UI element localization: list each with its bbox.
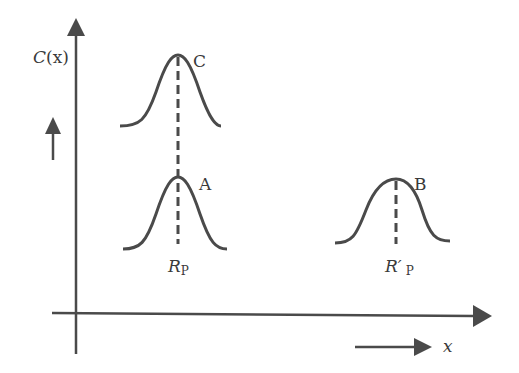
y-axis-arrowhead-icon	[67, 18, 85, 36]
x-axis-label: x	[443, 336, 453, 356]
up-direction-arrow	[45, 117, 61, 160]
peak-c: C	[120, 51, 221, 126]
peak-b-label: B	[414, 174, 427, 194]
peak-c-label: C	[193, 51, 206, 71]
up-arrow-icon	[45, 117, 61, 134]
x-axis-arrowhead-icon	[473, 305, 492, 327]
position-label-rp: RP	[167, 256, 189, 278]
peak-b: B R′P	[335, 174, 450, 278]
position-label-rp-prime: R′P	[384, 256, 414, 278]
concentration-diagram: C(x) x C A RP B R′P	[0, 0, 519, 373]
peak-a: A RP	[123, 174, 227, 278]
right-direction-arrow	[355, 338, 432, 356]
y-axis-label: C(x)	[33, 47, 69, 67]
right-arrow-icon	[414, 338, 432, 356]
peak-a-label: A	[198, 174, 212, 194]
x-axis	[52, 305, 492, 327]
y-axis	[67, 18, 85, 354]
